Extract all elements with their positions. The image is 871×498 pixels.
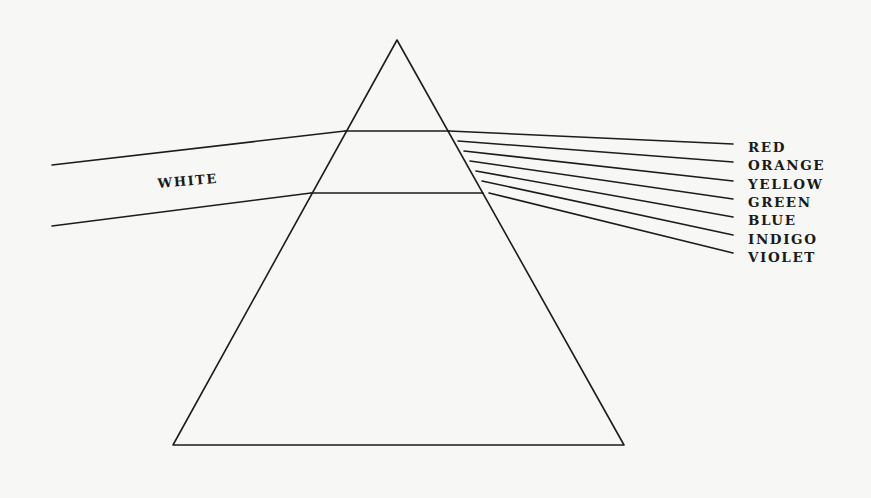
prism-triangle [173,40,624,445]
spectrum-rays [449,131,733,253]
prism-dispersion-diagram: WHITE RED ORANGE YELLOW GREEN BLUE INDIG… [0,0,871,498]
label-blue: BLUE [748,212,797,228]
label-violet: VIOLET [747,249,816,265]
label-yellow: YELLOW [747,176,823,192]
ray-indigo [482,181,733,235]
label-green: GREEN [748,194,812,210]
white-light-label: WHITE [156,171,219,191]
ray-orange [458,141,733,162]
label-red: RED [748,139,786,155]
label-orange: ORANGE [748,157,825,173]
ray-violet [489,193,733,253]
figure-page: WHITE RED ORANGE YELLOW GREEN BLUE INDIG… [0,0,871,498]
ray-red [449,131,733,144]
incident-beam-bottom-edge [52,193,311,226]
label-indigo: INDIGO [748,231,818,247]
spectrum-labels: RED ORANGE YELLOW GREEN BLUE INDIGO VIOL… [747,139,825,265]
incident-beam-top-edge [52,131,345,165]
